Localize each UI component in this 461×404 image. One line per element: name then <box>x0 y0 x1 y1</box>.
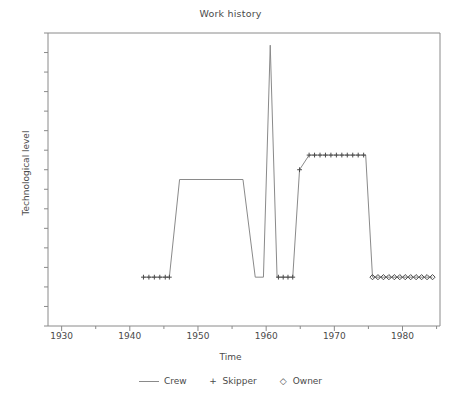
line-icon <box>139 381 159 382</box>
series-crew-line <box>143 45 432 277</box>
x-tick-label: 1940 <box>118 331 141 341</box>
x-tick-label: 1950 <box>187 331 210 341</box>
y-axis-ticks <box>44 33 48 326</box>
x-tick-label: 1970 <box>323 331 346 341</box>
plot-area <box>0 0 461 404</box>
legend-entry-skipper: + Skipper <box>209 376 257 386</box>
legend-label-skipper: Skipper <box>223 376 257 386</box>
plus-marker-icon: + <box>209 377 218 386</box>
x-tick-label: 1980 <box>391 331 414 341</box>
chart-legend: Crew + Skipper ◇ Owner <box>0 376 461 386</box>
legend-entry-owner: ◇ Owner <box>279 376 322 386</box>
chart-figure: Work history Technological level Time 19… <box>0 0 461 404</box>
diamond-marker-icon: ◇ <box>279 377 288 386</box>
x-tick-label: 1960 <box>255 331 278 341</box>
legend-entry-crew: Crew <box>139 376 187 386</box>
legend-label-owner: Owner <box>293 376 322 386</box>
axis-frame <box>48 33 440 326</box>
legend-label-crew: Crew <box>164 376 187 386</box>
x-tick-label: 1930 <box>50 331 73 341</box>
